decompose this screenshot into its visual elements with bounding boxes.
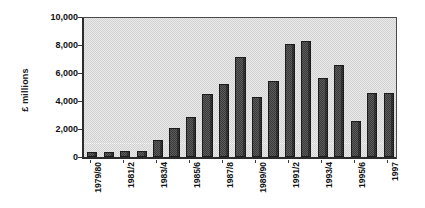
bar	[104, 152, 114, 157]
x-axis-tick-label: 1983/4	[160, 162, 169, 188]
bar	[186, 117, 196, 157]
y-axis-tick-mark	[78, 157, 82, 158]
x-axis-tick-label: 1985/6	[193, 162, 202, 188]
y-axis-tick-mark	[78, 101, 82, 102]
bar	[219, 84, 229, 158]
x-axis-tick-label: 1981/2	[127, 162, 136, 188]
x-axis-tick-labels: 1979/801981/21983/41985/61987/81989/9019…	[82, 160, 395, 208]
x-axis-tick-label: 1995/6	[358, 162, 367, 188]
y-axis-tick-label: 2,000	[34, 125, 78, 134]
x-axis-tick-mark	[321, 160, 322, 163]
bar	[318, 78, 328, 157]
bar-series	[84, 17, 397, 157]
x-axis-tick-mark	[90, 160, 91, 163]
plot-area	[82, 17, 397, 159]
y-axis-tick-label: 10,000	[34, 13, 78, 22]
bar	[87, 152, 97, 157]
x-axis-tick-mark	[189, 160, 190, 163]
y-axis-tick-label: 6,000	[34, 69, 78, 78]
y-axis-tick-mark	[78, 129, 82, 130]
y-axis-tick-mark	[78, 73, 82, 74]
y-axis-title: £ millions	[18, 50, 32, 130]
y-axis-tick-mark	[78, 45, 82, 46]
y-axis-tick-label: 4,000	[34, 97, 78, 106]
x-axis-tick-label: 1991/2	[292, 162, 301, 188]
x-axis-tick-label: 1979/80	[94, 162, 103, 193]
x-axis-tick-label: 1997	[391, 162, 400, 181]
x-axis-tick-mark	[222, 160, 223, 163]
bar	[351, 121, 361, 157]
bar-chart: £ millions 02,0004,0006,0008,00010,000 1…	[0, 0, 425, 208]
bar	[334, 65, 344, 157]
x-axis-tick-label: 1987/8	[226, 162, 235, 188]
x-axis-tick-label: 1993/4	[325, 162, 334, 188]
bar	[235, 57, 245, 157]
bar	[202, 94, 212, 157]
x-axis-tick-mark	[156, 160, 157, 163]
x-axis-tick-mark	[123, 160, 124, 163]
x-axis-tick-label: 1989/90	[259, 162, 268, 193]
x-axis-tick-mark	[387, 160, 388, 163]
bar	[120, 151, 130, 157]
bar	[367, 93, 377, 157]
x-axis-tick-mark	[354, 160, 355, 163]
y-axis-tick-label: 0	[34, 153, 78, 162]
bar	[268, 81, 278, 157]
bar	[137, 151, 147, 157]
bar	[252, 97, 262, 157]
bar	[169, 128, 179, 157]
y-axis-tick-labels: 02,0004,0006,0008,00010,000	[32, 0, 78, 208]
bar	[301, 41, 311, 157]
y-axis-title-text: £ millions	[20, 68, 30, 112]
y-axis-tick-mark	[78, 17, 82, 18]
x-axis-tick-mark	[288, 160, 289, 163]
bar	[285, 44, 295, 157]
y-axis-tick-label: 8,000	[34, 41, 78, 50]
x-axis-tick-mark	[255, 160, 256, 163]
bar	[384, 93, 394, 157]
bar	[153, 140, 163, 158]
